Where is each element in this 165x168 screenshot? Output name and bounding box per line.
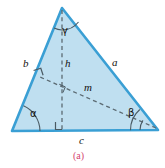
- label-angle-beta: β: [128, 108, 134, 118]
- label-side-c: c: [79, 135, 84, 146]
- label-angle-alpha: α: [30, 109, 37, 119]
- label-side-a: a: [112, 57, 118, 68]
- figure-caption: (a): [73, 151, 84, 161]
- label-side-b: b: [23, 58, 29, 69]
- label-angle-gamma: γ: [62, 26, 68, 36]
- label-height-h: h: [65, 58, 71, 69]
- triangle-figure: b a c h m α β γ (a): [0, 0, 165, 168]
- label-median-m: m: [84, 82, 92, 93]
